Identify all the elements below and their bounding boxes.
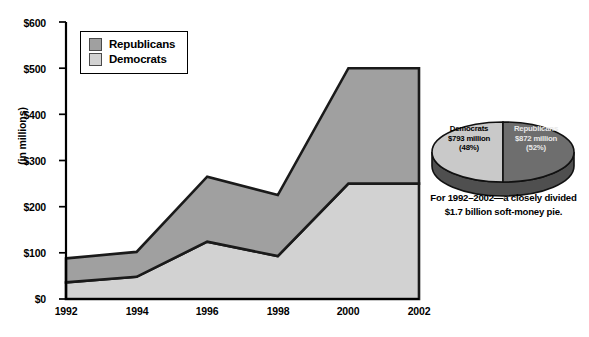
x-tick-label-1994: 1994: [107, 305, 167, 317]
x-tick-label-1998: 1998: [248, 305, 308, 317]
legend-label-democrats: Democrats: [109, 53, 167, 66]
legend-swatch-democrats: [89, 53, 102, 66]
x-tick-label-1992: 1992: [36, 305, 96, 317]
pie-label-republicans: Republicans $872 million (52%): [504, 124, 568, 153]
legend-item-republicans: Republicans: [89, 37, 175, 52]
plot-area: [0, 0, 430, 337]
legend-item-democrats: Democrats: [89, 52, 175, 67]
x-tick-label-2002: 2002: [389, 305, 449, 317]
pie-label-republicans-amount: $872 million: [504, 134, 568, 144]
x-tick-label-2000: 2000: [318, 305, 378, 317]
chart-legend: Republicans Democrats: [80, 31, 188, 74]
pie-caption-line-2: $1.7 billion soft-money pie.: [418, 205, 589, 219]
pie-caption-line-1: For 1992–2002—a closely divided: [418, 191, 589, 205]
pie-label-democrats: Democrats $793 million (48%): [438, 124, 500, 153]
pie-caption: For 1992–2002—a closely divided $1.7 bil…: [418, 191, 589, 218]
legend-swatch-republicans: [89, 38, 102, 51]
pie-label-republicans-name: Republicans: [504, 124, 568, 134]
legend-label-republicans: Republicans: [109, 38, 175, 51]
chart-page: (in millions) $600 $500 $400 $300 $200 $…: [0, 0, 589, 337]
x-tick-label-1996: 1996: [177, 305, 237, 317]
pie-label-democrats-amount: $793 million: [438, 134, 500, 144]
pie-label-republicans-percent: (52%): [504, 143, 568, 153]
pie-label-democrats-percent: (48%): [438, 143, 500, 153]
soft-money-area-chart: (in millions) $600 $500 $400 $300 $200 $…: [0, 0, 430, 337]
pie-label-democrats-name: Democrats: [438, 124, 500, 134]
